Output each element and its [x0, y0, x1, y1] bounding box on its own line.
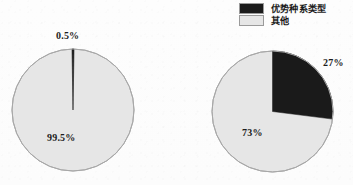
- left-pie-graphic: [11, 48, 135, 172]
- left-pie-chart: [11, 48, 135, 172]
- left-label-dominant: 0.5%: [56, 30, 79, 41]
- legend-item-dominant: 优势种系类型: [239, 2, 351, 14]
- figure-canvas: 优势种系类型 其他 0.5% 99.5% 27% 73%: [0, 0, 353, 185]
- legend-item-other: 其他: [239, 14, 351, 26]
- right-label-other: 73%: [242, 127, 263, 138]
- legend: 优势种系类型 其他: [239, 2, 351, 26]
- other-swatch: [239, 15, 264, 26]
- right-pie-graphic: [211, 50, 334, 173]
- legend-label-other: 其他: [271, 15, 289, 26]
- right-pie-chart: [211, 50, 334, 173]
- right-label-dominant: 27%: [323, 57, 344, 68]
- legend-label-dominant: 优势种系类型: [271, 3, 326, 14]
- dominant-lineage-swatch: [239, 3, 264, 14]
- left-label-other: 99.5%: [47, 132, 76, 143]
